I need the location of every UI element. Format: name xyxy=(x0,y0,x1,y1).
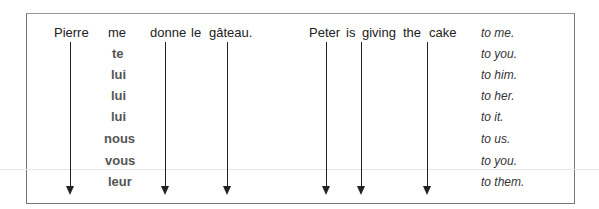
arrow-down-icon xyxy=(165,42,166,187)
word-the: the xyxy=(403,25,421,41)
arrow-down-icon xyxy=(361,42,362,187)
word-giving: giving xyxy=(362,25,396,41)
word-donne: donne xyxy=(150,25,186,41)
pronoun-row-7: vous xyxy=(105,153,135,169)
phrase-row-6: to us. xyxy=(481,131,510,147)
phrase-row-4: to her. xyxy=(481,88,515,104)
word-peter: Peter xyxy=(309,25,340,41)
word-is: is xyxy=(346,25,355,41)
phrase-row-5: to it. xyxy=(481,109,504,125)
word-le: le xyxy=(191,25,201,41)
pronoun-row-3: lui xyxy=(111,67,126,83)
arrow-down-icon xyxy=(70,42,71,187)
word-pierre: Pierre xyxy=(54,25,89,41)
pronoun-row-5: lui xyxy=(111,109,126,125)
arrow-down-icon xyxy=(326,42,327,187)
scan-line xyxy=(0,169,599,170)
phrase-row-2: to you. xyxy=(481,46,517,62)
phrase-row-3: to him. xyxy=(481,67,517,83)
pronoun-row-2: te xyxy=(112,46,124,62)
pronoun-row-1: me xyxy=(108,25,126,41)
phrase-row-7: to you. xyxy=(481,153,517,169)
phrase-row-8: to them. xyxy=(481,174,524,190)
word-cake: cake xyxy=(429,25,456,41)
word-gateau: gâteau. xyxy=(209,25,252,41)
phrase-row-1: to me. xyxy=(481,25,514,41)
pronoun-row-8: leur xyxy=(108,174,132,190)
pronoun-row-6: nous xyxy=(104,131,135,147)
arrow-down-icon xyxy=(227,42,228,187)
pronoun-row-4: lui xyxy=(111,88,126,104)
arrow-down-icon xyxy=(427,42,428,187)
